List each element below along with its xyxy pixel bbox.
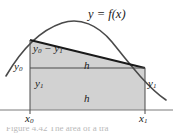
right-ordinate-sub: 1 xyxy=(153,82,157,90)
trapezoidal-rule-figure: y = f(x) y0 − y1 y0 y1 y1 h h x0 x1 Figu… xyxy=(0,0,173,134)
lower-width-label: h xyxy=(84,93,90,104)
caption-strip: Figure 4.42 The area of a tra xyxy=(0,127,173,134)
left-abscissa-label: x0 xyxy=(25,113,33,125)
inner-rect-label: y1 xyxy=(35,78,43,90)
right-ordinate-label: y1 xyxy=(148,78,156,90)
triangle-height-label: y0 − y1 xyxy=(33,43,63,55)
left-abscissa-sub: 0 xyxy=(30,117,34,125)
right-abscissa-sub: 1 xyxy=(144,117,148,125)
figure-caption: Figure 4.42 The area of a tra xyxy=(6,127,109,133)
inner-rect-sub: 1 xyxy=(40,82,44,90)
left-ordinate-label: y0 xyxy=(14,61,22,73)
left-ordinate-sub: 0 xyxy=(19,65,23,73)
function-curve-label: y = f(x) xyxy=(88,8,126,21)
upper-width-label: h xyxy=(84,60,90,71)
right-abscissa-label: x1 xyxy=(139,113,147,125)
triangle-height-sub-1: 1 xyxy=(59,47,63,55)
